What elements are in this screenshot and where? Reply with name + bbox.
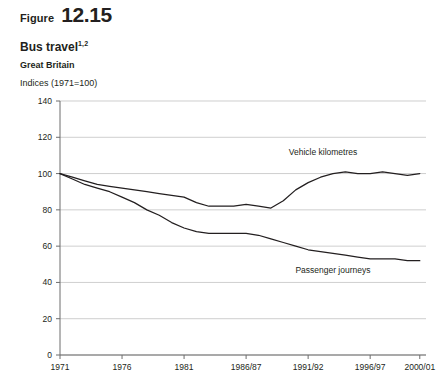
x-tick-label: 1986/87 [231, 362, 262, 372]
y-tick-label: 20 [43, 314, 53, 324]
y-tick-label: 80 [43, 205, 53, 215]
series-annotations: Vehicle kilometresPassenger journeys [289, 147, 371, 275]
chart-title-footnote-markers: 1,2 [78, 40, 88, 47]
series-annotation: Passenger journeys [295, 265, 370, 275]
y-tick-label: 140 [38, 96, 52, 106]
figure-label: Figure [20, 12, 54, 24]
x-tick-label: 1971 [51, 362, 70, 372]
y-tick-label: 40 [43, 277, 53, 287]
series-annotation: Vehicle kilometres [289, 147, 358, 157]
x-axis-labels: 1971197619811986/871991/921996/972000/01 [51, 362, 436, 372]
x-tick-label: 1976 [113, 362, 132, 372]
chart-plot-area: 020406080100120140 1971197619811986/8719… [0, 90, 437, 384]
y-tick-label: 60 [43, 241, 53, 251]
y-tick-label: 100 [38, 169, 52, 179]
chart-units-label: Indices (1971=100) [20, 78, 97, 88]
y-tick-label: 0 [47, 350, 52, 360]
figure-header: Figure 12.15 [20, 3, 112, 27]
series-line-vehicle-kilometres [60, 172, 420, 208]
figure-number: 12.15 [61, 3, 112, 27]
chart-title-text: Bus travel [20, 40, 78, 54]
x-axis [60, 101, 426, 359]
figure-page: Figure 12.15 Bus travel1,2 Great Britain… [0, 0, 437, 384]
chart-subtitle: Great Britain [20, 60, 75, 70]
x-tick-label: 1981 [175, 362, 194, 372]
x-tick-label: 1996/97 [355, 362, 386, 372]
gridlines-group [60, 101, 426, 355]
x-tick-label: 2000/01 [404, 362, 435, 372]
y-axis-labels: 020406080100120140 [38, 96, 52, 360]
series-lines [60, 172, 420, 261]
x-tick-label: 1991/92 [293, 362, 324, 372]
line-chart: 020406080100120140 1971197619811986/8719… [0, 90, 437, 384]
y-tick-label: 120 [38, 132, 52, 142]
y-axis-ticks [56, 101, 60, 355]
chart-title: Bus travel1,2 [20, 40, 88, 54]
